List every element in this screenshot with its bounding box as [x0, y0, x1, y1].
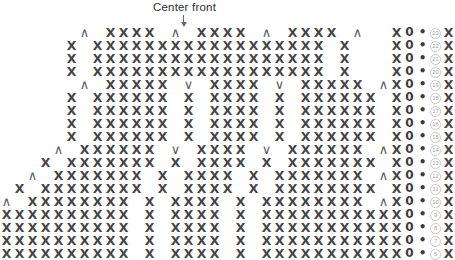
down-arrow-icon: [183, 15, 184, 26]
single-crochet-cell: X: [208, 247, 221, 260]
single-crochet-cell: X: [234, 247, 247, 260]
row-number-badge: 10: [429, 195, 442, 208]
single-crochet-cell: X: [338, 247, 351, 260]
center-front-label: Center front: [0, 1, 369, 13]
empty-cell: [221, 247, 234, 260]
single-crochet-cell: X: [377, 247, 390, 260]
single-crochet-cell: X: [364, 247, 377, 260]
single-crochet-cell: X: [39, 247, 52, 260]
single-crochet-cell: X: [195, 247, 208, 260]
single-crochet-cell: X: [0, 247, 13, 260]
single-crochet-cell: X: [182, 247, 195, 260]
row-number-badge: 18: [429, 91, 442, 104]
row-number-badge: 12: [429, 169, 442, 182]
single-crochet-cell: X: [312, 247, 325, 260]
single-crochet-cell: X: [442, 247, 455, 260]
empty-cell: [130, 247, 143, 260]
single-crochet-cell: X: [143, 247, 156, 260]
row-number-badge: 15: [429, 130, 442, 143]
row-number-badge: 14: [429, 143, 442, 156]
single-crochet-cell: X: [390, 247, 403, 260]
empty-cell: [247, 247, 260, 260]
single-crochet-cell: X: [52, 247, 65, 260]
row-number-badge: 7: [429, 234, 442, 247]
single-crochet-cell: X: [26, 247, 39, 260]
row-number-badge: 8: [429, 221, 442, 234]
empty-cell: [156, 247, 169, 260]
row-number-badge: 11: [429, 182, 442, 195]
single-crochet-cell: X: [169, 247, 182, 260]
row-number-badge: 17: [429, 104, 442, 117]
chart-row: XXXXXXXXXX X XXXX X XXXXXXXXXXX0•6X: [0, 247, 369, 260]
single-crochet-cell: X: [13, 247, 26, 260]
row-number-badge: 16: [429, 117, 442, 130]
single-crochet-cell: X: [325, 247, 338, 260]
row-number-badge: 23: [429, 26, 442, 39]
row-number-badge: 19: [429, 78, 442, 91]
row-number-badge: 20: [429, 65, 442, 78]
single-crochet-cell: X: [78, 247, 91, 260]
single-crochet-cell: X: [65, 247, 78, 260]
single-crochet-cell: X: [117, 247, 130, 260]
single-crochet-cell: X: [104, 247, 117, 260]
row-number-badge: 13: [429, 156, 442, 169]
stitch-grid: ∧ XXXX ∧ XXXX ∧ XXXX ∧ X0•23X X XXXXXXXX…: [0, 26, 369, 260]
chain-cell: 0: [403, 247, 416, 260]
row-number-badge: 21: [429, 52, 442, 65]
single-crochet-cell: X: [351, 247, 364, 260]
row-number-badge: 22: [429, 39, 442, 52]
single-crochet-cell: X: [273, 247, 286, 260]
slip-stitch-cell: •: [416, 247, 429, 260]
single-crochet-cell: X: [286, 247, 299, 260]
single-crochet-cell: X: [299, 247, 312, 260]
row-number-badge: 6: [429, 247, 442, 260]
row-number-badge: 9: [429, 208, 442, 221]
single-crochet-cell: X: [260, 247, 273, 260]
single-crochet-cell: X: [91, 247, 104, 260]
